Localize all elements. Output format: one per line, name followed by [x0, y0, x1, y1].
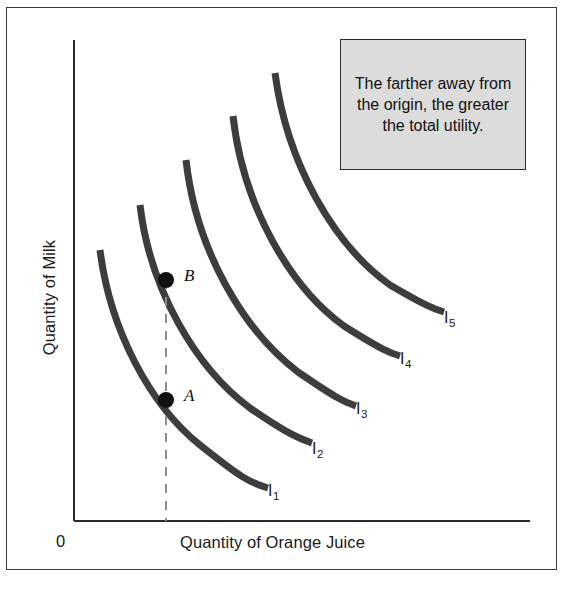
x-axis-title: Quantity of Orange Juice	[180, 533, 365, 552]
curve-label-I4: I4	[400, 350, 411, 368]
callout-box: The farther away from the origin, the gr…	[340, 39, 526, 170]
curve-label-I3: I3	[356, 400, 367, 418]
curve-label-I1: I1	[268, 482, 279, 500]
figure-container: Quantity of Milk Quantity of Orange Juic…	[0, 0, 573, 604]
curve-label-I2: I2	[312, 440, 323, 458]
curve-label-I5: I5	[444, 309, 455, 327]
callout-text: The farther away from the origin, the gr…	[341, 73, 525, 136]
point-label-A: A	[184, 386, 194, 406]
data-point-A	[158, 392, 174, 408]
point-label-B: B	[184, 266, 194, 286]
data-point-B	[158, 272, 174, 288]
origin-label: 0	[56, 532, 65, 551]
y-axis-title: Quantity of Milk	[40, 203, 59, 393]
